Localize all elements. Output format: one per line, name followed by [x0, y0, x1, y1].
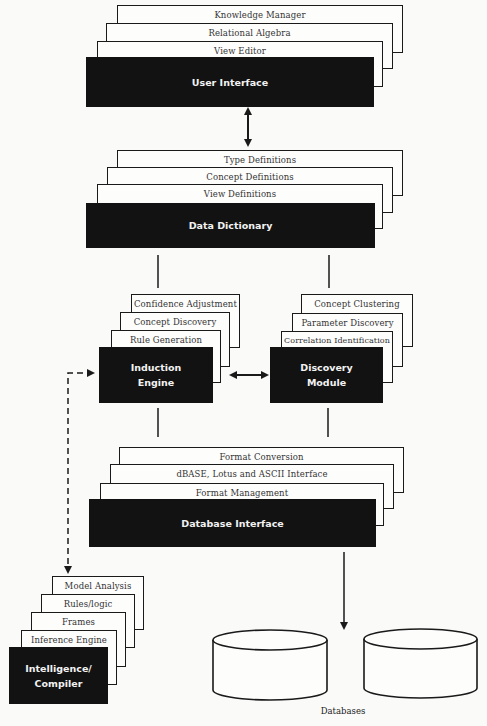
layer-label: dBASE, Lotus and ASCII Interface [111, 465, 393, 483]
core-title-line: Engine [138, 375, 175, 390]
layer-label: View Definitions [98, 185, 382, 203]
core-title-line: Compiler [35, 676, 83, 691]
core-title-line: Induction [131, 360, 182, 375]
layer-label: Concept Discovery [121, 313, 229, 331]
database-interface-box: Database Interface [89, 499, 376, 547]
core-title-line: Discovery [300, 360, 352, 375]
database-cylinder-icon [213, 630, 327, 700]
layer-label: Relational Algebra [107, 24, 392, 42]
layer-label: Rules/logic [42, 595, 134, 613]
data-dictionary-box: Data Dictionary [86, 203, 375, 248]
databases-label: Databases [303, 706, 383, 716]
core-title: User Interface [192, 75, 268, 90]
database-cylinder-icon [364, 629, 477, 698]
user-interface-box: User Interface [86, 57, 374, 107]
layer-label: Concept Clustering [302, 295, 412, 313]
core-title-line: Module [307, 375, 346, 390]
layer-label: Parameter Discovery [293, 314, 402, 332]
layer-label: Confidence Adjustment [132, 295, 239, 313]
induction-engine-box: Induction Engine [99, 347, 213, 403]
intelligence-compiler-box: Intelligence/ Compiler [9, 647, 108, 704]
layer-label: Knowledge Manager [118, 6, 402, 24]
layer-label: Frames [32, 613, 125, 631]
core-title-line: Intelligence/ [25, 661, 92, 676]
core-title: Database Interface [181, 516, 283, 531]
layer-label: Model Analysis [53, 577, 143, 595]
core-title: Data Dictionary [189, 218, 273, 233]
discovery-module-box: Discovery Module [270, 347, 383, 403]
